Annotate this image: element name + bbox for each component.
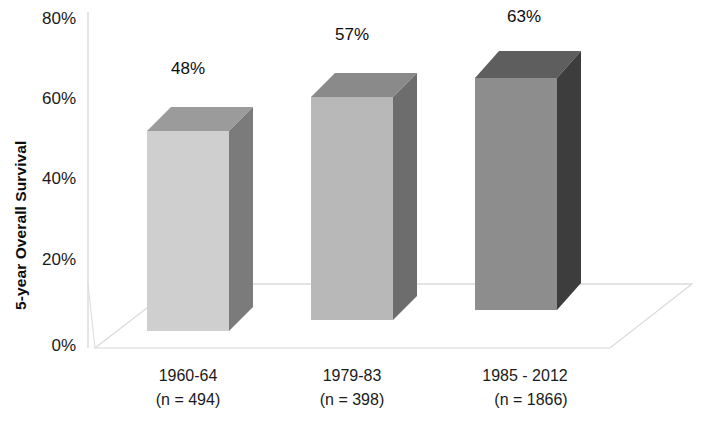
chart-container: 80% 60% 40% 20% 0% 5-year Overall Surviv… bbox=[0, 0, 702, 425]
y-tick-label-20: 20% bbox=[42, 250, 76, 269]
bar-2-front-face bbox=[311, 97, 393, 320]
bar-1-front-face bbox=[147, 131, 229, 331]
bar-group-3[interactable] bbox=[475, 51, 581, 310]
bar-group-1[interactable] bbox=[147, 107, 253, 331]
y-tick-label-0: 0% bbox=[51, 336, 76, 355]
y-tick-label-80: 80% bbox=[42, 9, 76, 28]
x-category-label-2-count: (n = 398) bbox=[320, 391, 384, 408]
bar-1-value-label: 48% bbox=[171, 59, 205, 78]
x-category-label-2-period: 1979-83 bbox=[323, 367, 382, 384]
bar-2-side-face bbox=[393, 73, 417, 320]
bar-3-side-face bbox=[557, 51, 581, 310]
bar-1-side-face bbox=[229, 107, 253, 331]
bar-chart-3d: 80% 60% 40% 20% 0% 5-year Overall Surviv… bbox=[0, 0, 702, 425]
y-tick-label-40: 40% bbox=[42, 169, 76, 188]
y-tick-label-60: 60% bbox=[42, 89, 76, 108]
x-category-label-1-period: 1960-64 bbox=[159, 367, 218, 384]
x-category-label-3-count: (n = 1866) bbox=[494, 391, 567, 408]
bar-3-front-face bbox=[475, 78, 557, 310]
bar-group-2[interactable] bbox=[311, 73, 417, 320]
x-category-label-3-period: 1985 - 2012 bbox=[482, 367, 568, 384]
bar-3-value-label: 63% bbox=[507, 7, 541, 26]
y-axis-title: 5-year Overall Survival bbox=[12, 141, 29, 310]
x-category-label-1-count: (n = 494) bbox=[156, 391, 220, 408]
bar-2-value-label: 57% bbox=[335, 25, 369, 44]
